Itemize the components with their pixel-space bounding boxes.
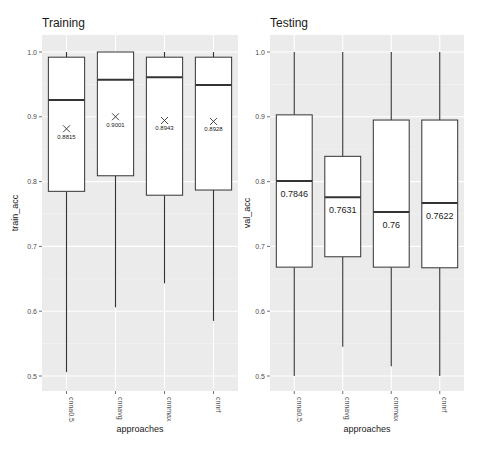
y-tick-label: 0.7 [27,243,37,250]
iqr-box [97,52,133,176]
y-tick-label: 0.5 [255,373,265,380]
y-tick-label: 0.9 [27,113,37,120]
mean-label: 0.9001 [106,122,125,128]
testing-panel: 0.50.60.70.80.91.0cnna0.5cnnavgcnnmaxcnn… [242,16,464,434]
x-axis-label: approaches [343,424,391,434]
panel-title: Testing [270,16,308,30]
x-tick-label: cnna0.5 [68,397,75,422]
panel-title: Training [42,16,85,30]
mean-label: 0.8928 [204,126,223,132]
training-panel: 0.50.60.70.80.91.0cnna0.5cnnavgcnnmaxcnn… [10,16,238,434]
iqr-box [195,57,231,190]
x-tick-label: cnnrf [215,397,222,413]
iqr-box [373,120,409,267]
x-tick-label: cnnavg [116,397,124,420]
value-label: 0.7846 [280,189,308,199]
x-tick-label: cnnmax [166,397,173,422]
y-tick-label: 0.5 [27,373,37,380]
value-label: 0.7631 [329,205,357,215]
mean-label: 0.8943 [155,125,174,131]
y-axis-label: train_acc [10,194,20,231]
y-axis-label: val_acc [242,197,252,228]
y-tick-label: 1.0 [255,49,265,56]
value-label: 0.76 [382,220,400,230]
y-tick-label: 0.7 [255,243,265,250]
x-tick-label: cnna0.5 [296,397,303,422]
x-tick-label: cnnmax [393,397,400,422]
y-tick-label: 1.0 [27,49,37,56]
y-tick-label: 0.6 [255,308,265,315]
y-tick-label: 0.8 [255,178,265,185]
y-tick-label: 0.8 [27,178,37,185]
x-axis-label: approaches [116,424,164,434]
iqr-box [422,120,458,268]
value-label: 0.7622 [426,211,454,221]
mean-label: 0.8815 [57,134,76,140]
x-tick-label: cnnrf [441,397,448,413]
y-tick-label: 0.9 [255,113,265,120]
iqr-box [48,57,84,191]
boxplot-figure: 0.50.60.70.80.91.0cnna0.5cnnavgcnnmaxcnn… [0,0,482,451]
x-tick-label: cnnavg [343,397,351,420]
y-tick-label: 0.6 [27,308,37,315]
